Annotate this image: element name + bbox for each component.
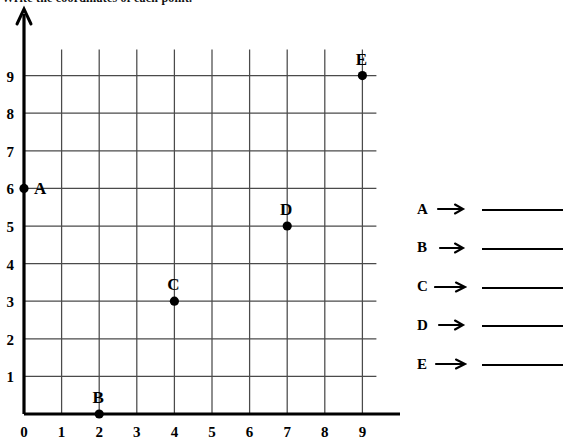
answer-lines-panel: ABCDE <box>408 196 565 392</box>
answer-row: C <box>408 274 565 300</box>
answer-rule <box>482 364 563 366</box>
x-tick-label: 8 <box>321 424 329 440</box>
answer-row-letter: D <box>408 318 434 333</box>
answer-input-blank[interactable] <box>478 318 565 332</box>
axes-group <box>17 9 400 422</box>
arrow-right-icon <box>434 280 478 294</box>
answer-row: B <box>408 235 565 261</box>
y-tick-label: 5 <box>7 219 15 235</box>
y-tick-label: 2 <box>7 332 15 348</box>
data-point-a <box>19 184 28 193</box>
answer-row-letter: C <box>408 279 434 294</box>
answer-row-letter: A <box>408 202 434 217</box>
answer-rule <box>482 287 563 289</box>
data-points-group: ABCDE <box>19 50 367 419</box>
data-point-label-a: A <box>34 179 47 198</box>
x-tick-label: 4 <box>171 424 179 440</box>
y-tick-label: 4 <box>7 257 15 273</box>
y-tick-label: 3 <box>7 294 15 310</box>
coordinate-grid-chart: 0123456789 123456789 ABCDE <box>0 0 400 441</box>
answer-rule <box>482 248 563 250</box>
answer-row-letter: E <box>408 357 434 372</box>
x-tick-label: 3 <box>133 424 141 440</box>
y-tick-label: 7 <box>7 144 15 160</box>
coordinate-grid-svg: 0123456789 123456789 ABCDE <box>0 0 400 441</box>
y-tick-label: 1 <box>7 369 15 385</box>
data-point-label-d: D <box>280 200 292 219</box>
answer-row: D <box>408 312 565 338</box>
answer-input-blank[interactable] <box>478 280 565 294</box>
x-tick-label: 2 <box>95 424 103 440</box>
arrow-right-icon <box>434 202 478 216</box>
x-tick-label: 5 <box>208 424 216 440</box>
answer-row-letter: B <box>408 240 434 255</box>
answer-input-blank[interactable] <box>478 241 565 255</box>
y-tick-label: 6 <box>7 181 15 197</box>
data-point-label-e: E <box>356 50 367 69</box>
x-tick-label: 6 <box>246 424 254 440</box>
x-tick-label: 9 <box>359 424 367 440</box>
x-tick-label: 7 <box>283 424 291 440</box>
arrow-right-icon <box>434 318 478 332</box>
answer-rule <box>482 209 563 211</box>
y-tick-label: 9 <box>7 69 15 85</box>
answer-rule <box>482 325 563 327</box>
arrow-right-icon <box>434 357 478 371</box>
x-axis-tick-labels: 0123456789 <box>20 424 366 440</box>
data-point-label-c: C <box>167 275 179 294</box>
data-point-e <box>358 71 367 80</box>
x-tick-label: 0 <box>20 424 28 440</box>
x-tick-label: 1 <box>58 424 66 440</box>
data-point-c <box>170 297 179 306</box>
answer-input-blank[interactable] <box>478 357 565 371</box>
y-axis-tick-labels: 123456789 <box>7 69 15 386</box>
answer-row: A <box>408 196 565 222</box>
data-point-b <box>95 409 104 418</box>
y-tick-label: 8 <box>7 106 15 122</box>
data-point-d <box>283 221 292 230</box>
answer-row: E <box>408 351 565 377</box>
arrow-right-icon <box>434 241 478 255</box>
data-point-label-b: B <box>93 388 104 407</box>
gridlines-group <box>24 50 376 414</box>
answer-input-blank[interactable] <box>478 202 565 216</box>
